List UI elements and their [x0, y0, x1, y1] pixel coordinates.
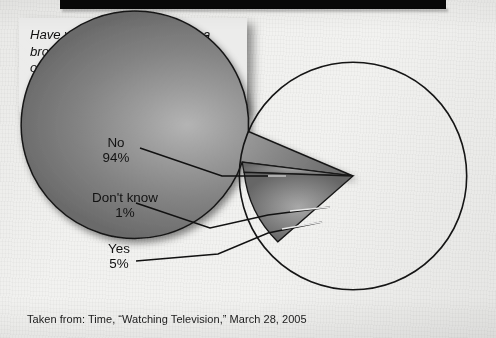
callout-no-label: No — [94, 135, 138, 150]
callout-dont-know-value: 1% — [80, 205, 170, 220]
pie-chart — [236, 59, 470, 293]
callout-dont-know: Don't know 1% — [80, 190, 170, 221]
pie-slice-yes — [244, 172, 353, 242]
poll-chart-page: Have you ever complained to a broadcaste… — [0, 0, 496, 338]
callout-yes: Yes 5% — [98, 241, 140, 272]
callout-yes-label: Yes — [98, 241, 140, 256]
callout-no-value: 94% — [94, 150, 138, 165]
callout-yes-value: 5% — [98, 256, 140, 271]
callout-dont-know-label: Don't know — [80, 190, 170, 205]
pie-chart-svg — [236, 59, 470, 293]
top-black-bar — [60, 0, 446, 9]
callout-no: No 94% — [94, 135, 138, 166]
source-caption: Taken from: Time, “Watching Television,”… — [27, 313, 307, 325]
